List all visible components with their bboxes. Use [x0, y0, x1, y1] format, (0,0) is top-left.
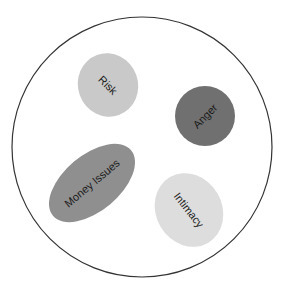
container-circle — [12, 17, 272, 277]
bubble-anger: Anger — [175, 86, 235, 146]
diagram-canvas: Risk Anger Money Issues Intimacy — [0, 0, 282, 288]
